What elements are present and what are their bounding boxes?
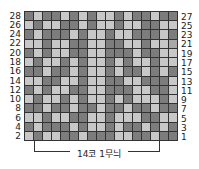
chart-cell (34, 49, 42, 57)
chart-cell (133, 113, 141, 121)
chart-cell (160, 49, 168, 57)
chart-cell (160, 86, 168, 94)
row-number-right: 7 (181, 105, 199, 114)
chart-cell (70, 95, 78, 103)
chart-cell (43, 123, 51, 131)
row-number-left: 8 (3, 104, 21, 113)
chart-cell (52, 21, 60, 29)
chart-cell (106, 77, 114, 85)
chart-cell (34, 30, 42, 38)
chart-cell (88, 77, 96, 85)
chart-cell (70, 58, 78, 66)
chart-cell (25, 58, 33, 66)
chart-cell (43, 12, 51, 20)
chart-cell (34, 132, 42, 140)
chart-cell (70, 49, 78, 57)
chart-cell (79, 58, 87, 66)
chart-cell (70, 77, 78, 85)
chart-cell (169, 113, 177, 121)
chart-cell (61, 113, 69, 121)
chart-cell (52, 58, 60, 66)
chart-cell (61, 86, 69, 94)
chart-cell (169, 132, 177, 140)
chart-cell (61, 104, 69, 112)
chart-cell (70, 113, 78, 121)
chart-cell (151, 77, 159, 85)
chart-cell (142, 95, 150, 103)
chart-cell (34, 58, 42, 66)
chart-cell (25, 49, 33, 57)
chart-cell (52, 40, 60, 48)
chart-cell (79, 49, 87, 57)
chart-cell (151, 67, 159, 75)
chart-cell (151, 30, 159, 38)
chart-cell (79, 132, 87, 140)
chart-cell (133, 67, 141, 75)
chart-cell (70, 67, 78, 75)
chart-cell (97, 67, 105, 75)
chart-cell (133, 86, 141, 94)
chart-cell (79, 95, 87, 103)
chart-cell (61, 58, 69, 66)
chart-cell (70, 21, 78, 29)
chart-cell (115, 123, 123, 131)
chart-cell (160, 77, 168, 85)
chart-cell (88, 12, 96, 20)
chart-cell (25, 132, 33, 140)
chart-cell (142, 104, 150, 112)
chart-cell (97, 58, 105, 66)
chart-cell (115, 95, 123, 103)
chart-cell (133, 104, 141, 112)
chart-cell (160, 21, 168, 29)
chart-cell (52, 132, 60, 140)
chart-cell (151, 86, 159, 94)
chart-cell (133, 95, 141, 103)
chart-cell (115, 21, 123, 29)
chart-cell (151, 49, 159, 57)
chart-cell (142, 49, 150, 57)
chart-cell (52, 77, 60, 85)
chart-cell (124, 49, 132, 57)
chart-cell (106, 21, 114, 29)
chart-cell (169, 58, 177, 66)
chart-cell (70, 30, 78, 38)
chart-cell (52, 67, 60, 75)
chart-cell (106, 86, 114, 94)
chart-cell (97, 95, 105, 103)
chart-cell (106, 123, 114, 131)
chart-cell (115, 30, 123, 38)
chart-cell (34, 86, 42, 94)
chart-cell (106, 40, 114, 48)
chart-cell (142, 12, 150, 20)
chart-cell (115, 77, 123, 85)
chart-cell (25, 67, 33, 75)
chart-cell (34, 113, 42, 121)
chart-cell (43, 95, 51, 103)
chart-cell (52, 104, 60, 112)
chart-cell (79, 113, 87, 121)
chart-cell (124, 132, 132, 140)
chart-cell (142, 86, 150, 94)
chart-cell (25, 113, 33, 121)
chart-cell (25, 21, 33, 29)
chart-cell (169, 21, 177, 29)
chart-cell (115, 132, 123, 140)
chart-cell (169, 123, 177, 131)
chart-cell (61, 123, 69, 131)
chart-cell (43, 40, 51, 48)
chart-cell (52, 95, 60, 103)
chart-cell (106, 58, 114, 66)
chart-cell (133, 40, 141, 48)
chart-cell (52, 30, 60, 38)
chart-cell (97, 77, 105, 85)
chart-cell (169, 104, 177, 112)
chart-cell (34, 12, 42, 20)
chart-cell (61, 49, 69, 57)
chart-cell (43, 86, 51, 94)
chart-cell (115, 40, 123, 48)
chart-cell (160, 123, 168, 131)
row-number-right: 21 (181, 40, 199, 49)
row-number-right: 15 (181, 68, 199, 77)
chart-cell (97, 123, 105, 131)
chart-cell (160, 67, 168, 75)
